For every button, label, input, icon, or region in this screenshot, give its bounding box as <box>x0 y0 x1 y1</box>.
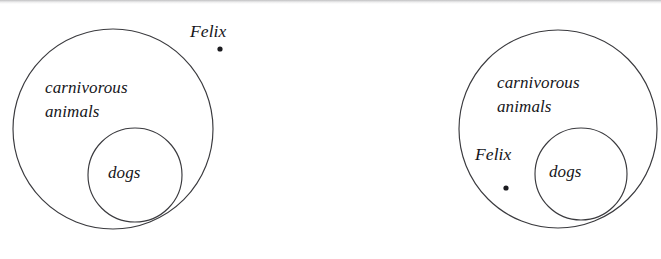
left-panel-shapes <box>0 0 330 259</box>
right-panel-shapes <box>331 0 661 259</box>
felix-point-dot <box>217 46 222 51</box>
diagram-panel-right: carnivorous animals Felix dogs <box>331 0 661 259</box>
felix-point-dot <box>503 185 508 190</box>
dogs-label: dogs <box>108 162 141 185</box>
diagram-panel-left: Felix carnivorous animals dogs <box>0 0 330 259</box>
animals-label-line2: animals <box>45 101 100 124</box>
carnivorous-label-line1: carnivorous <box>45 77 128 100</box>
figure-canvas: Felix carnivorous animals dogs carnivoro… <box>0 0 661 259</box>
carnivorous-label-line1: carnivorous <box>497 72 580 95</box>
felix-label: Felix <box>190 20 226 43</box>
felix-label: Felix <box>475 143 511 166</box>
dogs-label: dogs <box>549 161 582 184</box>
animals-label-line2: animals <box>497 96 552 119</box>
